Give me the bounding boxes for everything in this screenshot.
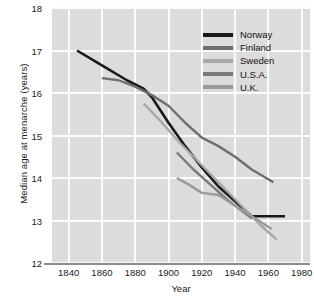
x-axis-title: Year bbox=[52, 283, 310, 294]
y-tick-label: 16 bbox=[0, 88, 46, 99]
legend-label: U.K. bbox=[240, 82, 258, 93]
legend-swatch-icon bbox=[203, 46, 233, 50]
legend-item: Finland bbox=[203, 41, 303, 54]
y-tick-label: 18 bbox=[0, 3, 46, 14]
legend-label: Sweden bbox=[240, 55, 274, 66]
legend-swatch-icon bbox=[203, 85, 233, 89]
y-tick-label: 14 bbox=[0, 173, 46, 184]
legend-label: U.S.A. bbox=[240, 69, 267, 80]
legend-item: Norway bbox=[203, 28, 303, 41]
legend-swatch-icon bbox=[203, 72, 233, 76]
legend-item: Sweden bbox=[203, 54, 303, 67]
legend-label: Norway bbox=[240, 29, 272, 40]
legend-swatch-icon bbox=[203, 59, 233, 63]
x-tick-label: 1980 bbox=[282, 267, 314, 278]
legend-item: U.S.A. bbox=[203, 68, 303, 81]
x-axis-line bbox=[44, 263, 310, 265]
chart-container: Median age at menarche (years) Year Norw… bbox=[0, 0, 314, 300]
y-tick-label: 15 bbox=[0, 130, 46, 141]
legend-swatch-icon bbox=[203, 33, 233, 37]
y-tick-label: 12 bbox=[0, 258, 46, 269]
legend-item: U.K. bbox=[203, 81, 303, 94]
y-tick-label: 13 bbox=[0, 215, 46, 226]
y-tick-label: 17 bbox=[0, 45, 46, 56]
chart-legend: NorwayFinlandSwedenU.S.A.U.K. bbox=[203, 28, 303, 94]
legend-label: Finland bbox=[240, 42, 271, 53]
